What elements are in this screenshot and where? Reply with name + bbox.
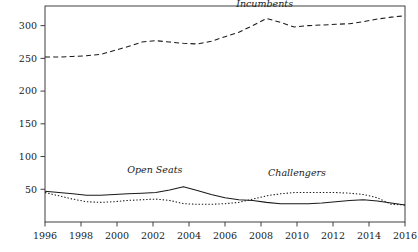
line-chart: 50100150200250300 1996199820002002200420… — [0, 0, 418, 252]
y-tick-label: 200 — [19, 85, 37, 96]
y-tick-label: 100 — [19, 151, 37, 162]
x-tick-label: 2004 — [177, 230, 201, 241]
x-tick-label: 2010 — [285, 230, 309, 241]
series-label-challengers: Challengers — [268, 167, 326, 178]
x-tick-label: 2012 — [321, 230, 345, 241]
x-tick-label: 2000 — [105, 230, 129, 241]
y-axis-ticks: 50100150200250300 — [19, 20, 45, 195]
x-tick-label: 2016 — [393, 230, 417, 241]
series-label-open-seats: Open Seats — [127, 164, 182, 175]
x-tick-label: 1996 — [33, 230, 57, 241]
plot-frame — [45, 6, 405, 222]
y-tick-label: 300 — [19, 20, 37, 31]
y-tick-label: 50 — [25, 184, 37, 195]
x-tick-label: 1998 — [69, 230, 93, 241]
y-tick-label: 250 — [19, 53, 37, 64]
x-tick-label: 2008 — [249, 230, 273, 241]
y-tick-label: 150 — [19, 118, 37, 129]
x-tick-label: 2014 — [357, 230, 381, 241]
x-axis-ticks: 1996199820002002200420062008201020122014… — [33, 222, 417, 241]
chart-figure: 50100150200250300 1996199820002002200420… — [0, 0, 418, 252]
series-label-incumbents: Incumbents — [235, 0, 293, 9]
x-tick-label: 2002 — [141, 230, 165, 241]
x-tick-label: 2006 — [213, 230, 237, 241]
